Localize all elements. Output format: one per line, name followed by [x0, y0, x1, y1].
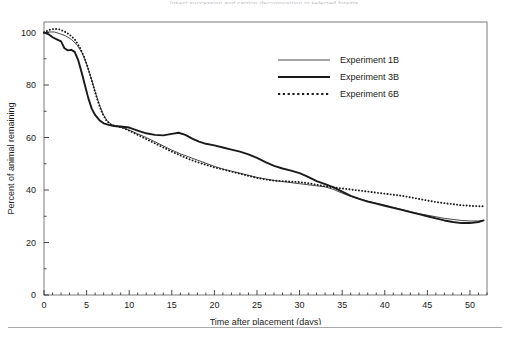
x-axis-title: Time after placement (days) — [210, 317, 322, 325]
x-tick-label: 45 — [422, 300, 432, 310]
figure-container: Insect succession and carrion decomposit… — [0, 0, 510, 339]
y-tick-label: 40 — [26, 185, 36, 195]
page-header-fragment: Insect succession and carrion decomposit… — [170, 0, 500, 4]
x-tick-label: 5 — [84, 300, 89, 310]
x-tick-labels: 05101520253035404550 — [41, 300, 474, 310]
legend-label-3: Experiment 6B — [340, 89, 399, 99]
x-tick-label: 0 — [41, 300, 46, 310]
chart-legend: Experiment 1BExperiment 3BExperiment 6B — [278, 55, 399, 99]
series-line-3 — [44, 29, 484, 206]
y-tick-label: 0 — [31, 290, 36, 300]
x-tick-label: 40 — [380, 300, 390, 310]
y-tick-label: 80 — [26, 80, 36, 90]
data-series — [44, 29, 484, 223]
y-tick-label: 60 — [26, 133, 36, 143]
axis-ticks — [44, 33, 487, 296]
x-tick-label: 30 — [295, 300, 305, 310]
x-tick-label: 35 — [337, 300, 347, 310]
series-line-2 — [44, 33, 484, 224]
line-chart: 05101520253035404550 020406080100 Experi… — [0, 0, 510, 325]
plot-frame — [44, 22, 487, 295]
y-axis-title: Percent of animal remaining — [6, 102, 16, 214]
series-line-1 — [44, 32, 484, 221]
y-tick-labels: 020406080100 — [21, 28, 36, 301]
x-tick-label: 10 — [124, 300, 134, 310]
y-tick-label: 100 — [21, 28, 36, 38]
y-tick-label: 20 — [26, 238, 36, 248]
x-tick-label: 50 — [465, 300, 475, 310]
footer-rule — [8, 327, 502, 328]
x-tick-label: 20 — [209, 300, 219, 310]
legend-label-1: Experiment 1B — [340, 55, 399, 65]
legend-label-2: Experiment 3B — [340, 72, 399, 82]
x-tick-label: 25 — [252, 300, 262, 310]
x-tick-label: 15 — [167, 300, 177, 310]
